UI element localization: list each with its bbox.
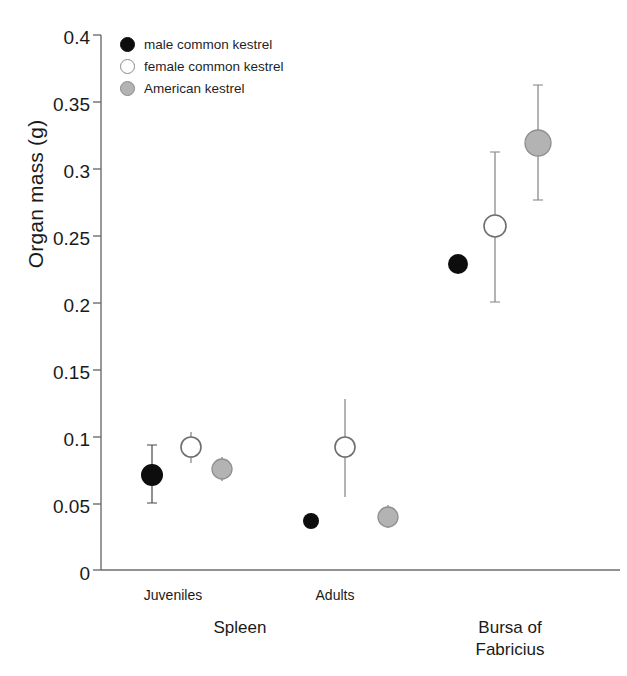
datapoint-bursa-female bbox=[484, 152, 506, 302]
plot-area bbox=[0, 0, 627, 676]
datapoint-adults-male bbox=[303, 513, 319, 529]
x-subgroup-label-adults: Adults bbox=[290, 587, 380, 603]
datapoint-adults-female bbox=[335, 399, 355, 497]
y-axis-ticks bbox=[93, 35, 101, 570]
datapoint-bursa-male bbox=[448, 254, 468, 274]
datapoint-juveniles-american bbox=[212, 457, 232, 481]
chart-figure: Organ mass (g) 0.4 0.35 0.3 0.25 0.2 0.1… bbox=[0, 0, 627, 676]
axis-lines bbox=[101, 35, 620, 570]
datapoint-juveniles-male bbox=[141, 445, 163, 503]
x-group-label-bursa-of-fabricius: Bursa of Fabricius bbox=[440, 617, 580, 661]
datapoint-adults-american bbox=[378, 505, 398, 528]
datapoint-juveniles-female bbox=[181, 432, 201, 463]
x-subgroup-label-juveniles: Juveniles bbox=[128, 587, 218, 603]
x-group-label-spleen: Spleen bbox=[185, 617, 295, 639]
datapoint-bursa-american bbox=[525, 85, 551, 200]
